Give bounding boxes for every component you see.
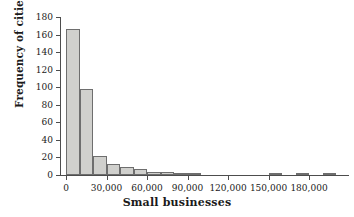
x-tick-mark	[309, 175, 310, 180]
y-axis-line	[60, 17, 61, 176]
x-tick-label: 120,000	[209, 183, 246, 193]
histogram-bar	[296, 173, 310, 176]
histogram-bar	[80, 89, 94, 175]
y-tick-mark	[56, 70, 60, 71]
y-tick-label: 40	[42, 135, 53, 145]
histogram-bar	[134, 169, 148, 175]
histogram-bar	[66, 29, 80, 175]
x-tick-label: 60,000	[131, 183, 163, 193]
x-tick-label: 90,000	[172, 183, 204, 193]
y-axis-title: Frequency of cities	[13, 0, 25, 124]
x-tick-mark	[228, 175, 229, 180]
y-tick-label: 0	[47, 170, 53, 180]
y-tick-mark	[56, 175, 60, 176]
y-tick-label: 20	[42, 152, 53, 162]
y-tick-mark	[56, 35, 60, 36]
y-tick-mark	[56, 52, 60, 53]
y-tick-mark	[56, 105, 60, 106]
x-axis-line	[60, 175, 349, 176]
y-tick-label: 120	[36, 65, 53, 75]
x-tick-label: 30,000	[91, 183, 123, 193]
x-tick-mark	[107, 175, 108, 180]
y-tick-mark	[56, 87, 60, 88]
plot-area: 020406080100120140160180 030,00060,00090…	[60, 17, 348, 175]
x-tick-label: 0	[63, 183, 69, 193]
histogram-bar	[93, 156, 107, 175]
y-tick-label: 100	[36, 82, 53, 92]
x-tick-mark	[269, 175, 270, 180]
y-tick-label: 180	[36, 12, 53, 22]
y-tick-mark	[56, 17, 60, 18]
x-tick-mark	[188, 175, 189, 180]
histogram-bar	[323, 173, 337, 176]
histogram-bar	[120, 167, 134, 175]
y-tick-mark	[56, 157, 60, 158]
y-tick-label: 80	[42, 100, 53, 110]
x-tick-label: 150,000	[250, 183, 287, 193]
x-axis-title: Small businesses	[0, 196, 354, 209]
y-tick-mark	[56, 140, 60, 141]
histogram-bar	[174, 173, 188, 176]
histogram-bar	[107, 164, 121, 175]
y-tick-label: 140	[36, 47, 53, 57]
y-tick-label: 60	[42, 117, 53, 127]
x-tick-mark	[66, 175, 67, 180]
histogram-bar	[161, 172, 175, 175]
histogram-bar	[188, 173, 202, 176]
x-tick-label: 180,000	[290, 183, 327, 193]
y-tick-mark	[56, 122, 60, 123]
y-tick-label: 160	[36, 30, 53, 40]
histogram-bar	[147, 172, 161, 176]
x-tick-mark	[147, 175, 148, 180]
histogram-bar	[269, 173, 283, 176]
histogram-figure: Frequency of cities 02040608010012014016…	[0, 0, 354, 217]
